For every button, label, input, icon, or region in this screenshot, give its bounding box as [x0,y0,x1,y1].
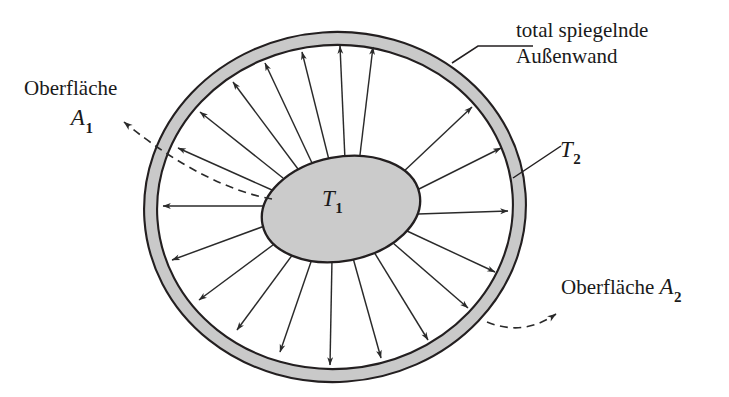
label-surface-a2-subscript: 2 [674,289,682,305]
label-surface-a2-symbol: A [660,274,674,299]
label-t2-subscript: 2 [573,151,581,167]
label-surface-a1-subscript: 1 [85,120,93,136]
label-surface-a2: Oberfläche A2 [561,273,681,303]
label-t1-symbol: T [322,186,335,211]
label-surface-a1-word: Oberfläche [24,76,117,100]
label-t1-subscript: 1 [335,200,343,216]
label-outer-wall-line1: total spiegelnde [516,18,648,42]
label-surface-a2-word: Oberfläche [561,275,654,299]
label-surface-a1-symbol-group: A1 [46,104,117,134]
label-outer-wall: total spiegelnde Außenwand [516,18,648,69]
label-t2-symbol: T [560,137,573,162]
label-surface-a1: Oberfläche A1 [24,76,117,134]
label-surface-a1-symbol: A [71,105,85,130]
label-temperature-t1: T1 [322,185,342,214]
label-temperature-t2: T2 [560,136,580,165]
radiation-enclosure-diagram: total spiegelnde Außenwand Oberfläche A1… [0,0,729,397]
label-outer-wall-line2: Außenwand [516,44,617,68]
